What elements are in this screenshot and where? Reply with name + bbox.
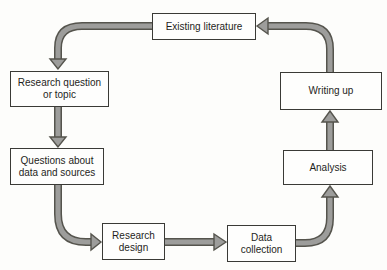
arrow-research-question-to-questions-about-data xyxy=(50,104,66,147)
node-analysis-label: Analysis xyxy=(309,162,346,174)
node-research-design: Research design xyxy=(102,223,165,260)
arrow-questions-about-data-to-research-design xyxy=(58,182,101,250)
node-data-collection: Data collection xyxy=(227,225,296,262)
node-research-question-or-topic-label: Research question or topic xyxy=(14,77,105,101)
node-research-question-or-topic: Research question or topic xyxy=(10,71,109,107)
arrows-layer xyxy=(0,0,387,270)
arrow-existing-literature-to-research-question xyxy=(50,26,155,69)
node-questions-about-data-and-sources: Questions about data and sources xyxy=(10,148,104,185)
node-data-collection-label: Data collection xyxy=(231,232,292,256)
node-writing-up: Writing up xyxy=(280,72,382,110)
arrow-analysis-to-writing-up xyxy=(322,111,338,153)
node-analysis: Analysis xyxy=(283,150,373,185)
node-writing-up-label: Writing up xyxy=(309,85,354,97)
node-questions-about-data-and-sources-label: Questions about data and sources xyxy=(14,155,100,179)
arrow-research-design-to-data-collection xyxy=(162,234,226,250)
node-research-design-label: Research design xyxy=(106,230,161,254)
research-cycle-diagram: Existing literature Research question or… xyxy=(0,0,387,270)
arrow-writing-up-to-existing-literature xyxy=(257,18,330,75)
arrow-data-collection-to-analysis xyxy=(293,186,338,243)
node-existing-literature: Existing literature xyxy=(152,13,256,40)
node-existing-literature-label: Existing literature xyxy=(166,21,243,33)
